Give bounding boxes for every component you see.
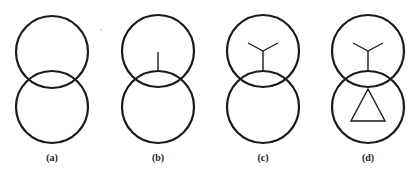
wye-symbol-icon	[248, 43, 278, 70]
wye-symbol-icon	[353, 43, 383, 70]
artifact-dot	[100, 29, 101, 30]
figure-canvas: (a) (b) (c) (d)	[0, 0, 416, 175]
panel-b: (b)	[122, 15, 194, 164]
panel-d: (d)	[332, 15, 404, 164]
panel-a: (a)	[16, 16, 88, 164]
panel-label-b: (b)	[152, 152, 164, 164]
top-circle	[122, 15, 194, 87]
delta-triangle-icon	[351, 89, 385, 121]
bottom-circle	[332, 71, 404, 143]
bottom-circle	[227, 71, 299, 143]
panel-label-a: (a)	[46, 152, 58, 164]
panel-label-c: (c)	[257, 152, 268, 164]
bottom-circle	[16, 71, 88, 143]
panel-c: (c)	[227, 15, 299, 164]
bottom-circle	[122, 71, 194, 143]
panel-label-d: (d)	[362, 152, 374, 164]
top-circle	[16, 16, 88, 88]
